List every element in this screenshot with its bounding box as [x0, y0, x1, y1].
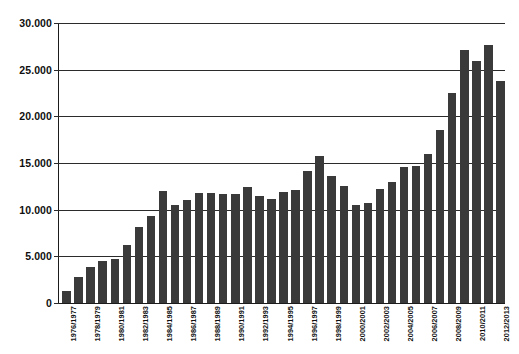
bar — [255, 196, 263, 303]
bar — [327, 176, 335, 303]
y-tick-mark — [54, 303, 59, 304]
bar — [376, 189, 384, 303]
bar — [98, 261, 106, 303]
bar-chart: 05.00010.00015.00020.00025.00030.000 197… — [0, 0, 519, 354]
bar — [484, 45, 492, 303]
x-tick-label: 1988/1989 — [213, 306, 222, 341]
x-tick-label: 1996/1997 — [310, 306, 319, 341]
x-tick-label: 1992/1993 — [261, 306, 270, 341]
bar — [279, 192, 287, 303]
x-tick-label: 1990/1991 — [237, 306, 246, 341]
bar — [86, 267, 94, 303]
y-tick-label: 5.000 — [0, 251, 52, 261]
bar — [436, 130, 444, 303]
bar — [62, 291, 70, 303]
bar — [171, 205, 179, 303]
x-tick-label: 1980/1981 — [117, 306, 126, 341]
y-tick-label: 20.000 — [0, 111, 52, 121]
x-tick-label: 1994/1995 — [286, 306, 295, 341]
x-axis: 1976/19771978/19791980/19811982/19831984… — [58, 306, 504, 354]
bar — [472, 61, 480, 303]
bar — [352, 205, 360, 303]
x-tick-label: 1982/1983 — [141, 306, 150, 341]
x-tick-label: 1998/1999 — [334, 306, 343, 341]
bar — [448, 93, 456, 303]
bar — [219, 194, 227, 303]
y-tick-label: 25.000 — [0, 65, 52, 75]
bar — [135, 227, 143, 303]
bar — [111, 259, 119, 303]
x-tick-label: 1984/1985 — [165, 306, 174, 341]
bar — [291, 190, 299, 303]
bar — [74, 277, 82, 303]
y-tick-label: 30.000 — [0, 18, 52, 28]
bar — [496, 81, 504, 303]
bar — [303, 171, 311, 303]
x-tick-label: 1986/1987 — [189, 306, 198, 341]
bar — [412, 166, 420, 303]
x-tick-label: 2006/2007 — [430, 306, 439, 341]
bar — [388, 182, 396, 303]
bar — [460, 50, 468, 303]
bar — [147, 216, 155, 303]
x-tick-label: 2004/2005 — [406, 306, 415, 341]
bar — [400, 167, 408, 303]
x-tick-label: 2000/2001 — [358, 306, 367, 341]
x-tick-label: 2008/2009 — [454, 306, 463, 341]
y-axis: 05.00010.00015.00020.00025.00030.000 — [0, 0, 52, 354]
bar — [243, 187, 251, 303]
bar — [159, 191, 167, 303]
x-tick-label: 1978/1979 — [93, 306, 102, 341]
bar — [364, 203, 372, 303]
x-tick-label: 2012/2013 — [502, 306, 511, 341]
x-tick-label: 2010/2011 — [478, 306, 487, 341]
bar — [424, 154, 432, 303]
x-tick-label: 2002/2003 — [382, 306, 391, 341]
gridline — [59, 303, 505, 304]
y-tick-label: 15.000 — [0, 158, 52, 168]
bar — [123, 245, 131, 303]
bar — [231, 194, 239, 303]
bar — [315, 156, 323, 303]
y-tick-label: 0 — [0, 298, 52, 308]
x-tick-label: 1976/1977 — [69, 306, 78, 341]
y-tick-label: 10.000 — [0, 205, 52, 215]
bars-layer — [59, 23, 505, 303]
bar — [267, 199, 275, 303]
plot-area — [58, 23, 505, 303]
bar — [183, 200, 191, 303]
bar — [195, 193, 203, 303]
bar — [207, 193, 215, 303]
bar — [340, 186, 348, 303]
